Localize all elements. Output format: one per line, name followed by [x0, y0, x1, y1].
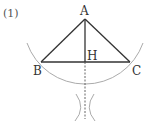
segment-ab	[41, 19, 85, 62]
point-label-c: C	[132, 65, 141, 77]
intersection-arc-left	[75, 94, 81, 121]
point-label-h: H	[87, 50, 97, 62]
construction-svg	[0, 0, 152, 130]
point-label-a: A	[80, 5, 89, 17]
point-label-b: B	[33, 65, 42, 77]
intersection-arc-right	[89, 94, 95, 121]
problem-number: (1)	[3, 8, 19, 19]
geometry-figure: (1) A B C H	[0, 0, 152, 130]
